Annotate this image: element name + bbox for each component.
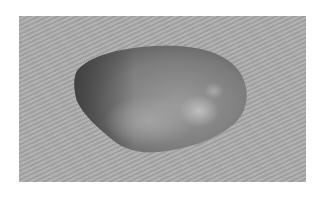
stone bbox=[19, 16, 306, 182]
photo-frame bbox=[19, 16, 306, 182]
